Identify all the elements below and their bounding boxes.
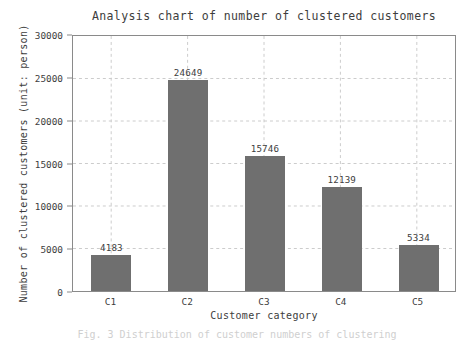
x-tick-label-c2: C2 (149, 296, 226, 307)
bar-group-c2: 24649 (150, 36, 227, 291)
bar-c3[interactable] (245, 156, 285, 291)
bar-value-label: 12139 (327, 174, 356, 185)
x-axis-title: Customer category (72, 310, 456, 321)
bar-c2[interactable] (168, 80, 208, 291)
bar-value-label: 5334 (407, 232, 430, 243)
bars-layer: 41832464915746121395334 (73, 36, 455, 291)
y-axis-ticks: 050001000015000200002500030000 (0, 35, 72, 292)
x-tick-label-c4: C4 (302, 296, 379, 307)
y-tick-label: 5000 (40, 244, 63, 255)
figure-caption: Fig. 3 Distribution of customer numbers … (0, 329, 474, 340)
bar-group-c1: 4183 (73, 36, 150, 291)
y-tick-label: 15000 (35, 158, 63, 169)
bar-group-c4: 12139 (303, 36, 380, 291)
x-tick-label-c3: C3 (226, 296, 303, 307)
bar-value-label: 4183 (100, 242, 123, 253)
chart-title: Analysis chart of number of clustered cu… (72, 9, 456, 23)
y-tick-label: 30000 (35, 30, 63, 41)
bar-group-c3: 15746 (227, 36, 304, 291)
x-axis-ticks: C1C2C3C4C5 (72, 292, 456, 310)
x-tick-label-c5: C5 (379, 296, 456, 307)
y-tick-label: 20000 (35, 115, 63, 126)
bar-c5[interactable] (399, 245, 439, 291)
bar-c1[interactable] (91, 255, 131, 291)
y-tick-label: 0 (57, 287, 63, 298)
y-tick-label: 10000 (35, 201, 63, 212)
bar-c4[interactable] (322, 187, 362, 291)
bar-value-label: 24649 (174, 67, 203, 78)
bar-group-c5: 5334 (380, 36, 457, 291)
plot-area: 41832464915746121395334 (72, 35, 456, 292)
y-tick-label: 25000 (35, 72, 63, 83)
bar-value-label: 15746 (251, 143, 280, 154)
x-tick-label-c1: C1 (72, 296, 149, 307)
